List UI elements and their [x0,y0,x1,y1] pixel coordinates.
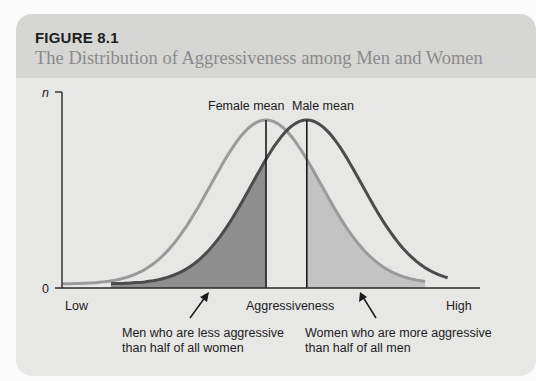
arrow-women-annotation [359,292,376,318]
men-annotation-line-2: than half of all women [122,341,284,356]
women-shaded-region [307,159,425,288]
y-tick-label-0: 0 [42,282,49,296]
y-tick-label-n: n [42,86,49,100]
male-mean-label: Male mean [292,99,354,113]
women-annotation-line-1: Women who are more aggressive [305,326,492,341]
men-annotation-line-1: Men who are less aggressive [122,326,284,341]
arrow-men-annotation [190,292,209,318]
men-annotation: Men who are less aggressive than half of… [122,326,284,356]
women-annotation-line-2: than half of all men [305,341,492,356]
x-tick-label-low: Low [65,299,89,313]
female-mean-label: Female mean [208,99,284,113]
x-tick-label-high: High [446,299,472,313]
women-annotation: Women who are more aggressive than half … [305,326,492,356]
x-axis-label: Aggressiveness [246,299,334,313]
men-curve [111,120,448,284]
